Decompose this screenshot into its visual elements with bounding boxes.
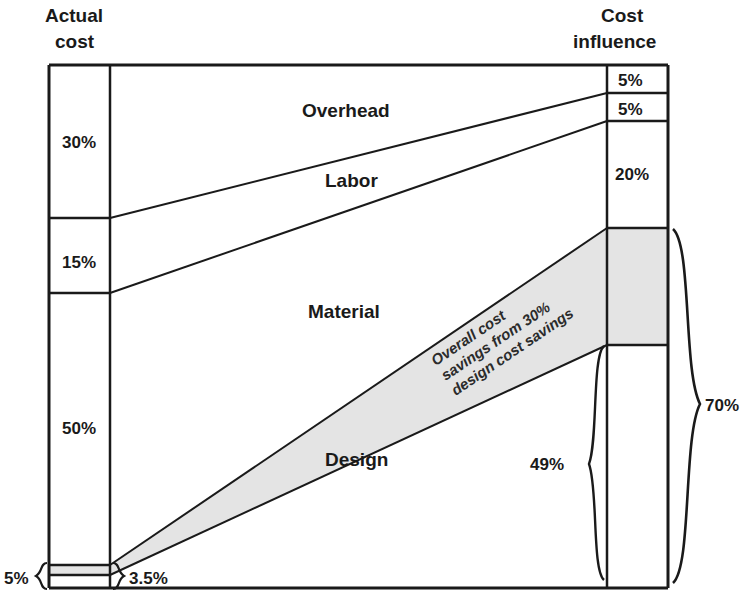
savings-upper-line — [110, 228, 607, 565]
area-label-labor: Labor — [325, 170, 378, 191]
total-influence-pct: 70% — [705, 396, 739, 415]
actual-cost-header-line2: cost — [55, 31, 95, 52]
actual-overhead-pct: 30% — [62, 133, 96, 152]
design-influence-brace — [589, 346, 604, 580]
actual-design-pct: 5% — [4, 569, 29, 588]
influence-overhead-pct: 5% — [618, 71, 643, 90]
area-label-design: Design — [325, 449, 388, 470]
area-label-material: Material — [308, 301, 380, 322]
labor-taper-line — [110, 121, 607, 293]
design-influence-pct: 49% — [530, 455, 564, 474]
cost-influence-header-line1: Cost — [601, 5, 644, 26]
cost-influence-header-line2: influence — [573, 31, 656, 52]
actual-cost-header-line1: Actual — [45, 5, 103, 26]
design-savings-wedge — [50, 228, 668, 575]
influence-shaded-block — [607, 228, 668, 345]
total-influence-brace — [673, 229, 700, 583]
savings-wedge-fill — [110, 228, 607, 575]
area-label-overhead: Overhead — [302, 100, 390, 121]
actual-design-inner-pct: 3.5% — [129, 569, 168, 588]
actual-material-pct: 50% — [62, 419, 96, 438]
actual-labor-pct: 15% — [62, 253, 96, 272]
cost-influence-diagram: 30% 15% 50% 5% 3.5% 5% 5% 20% 49% 70% Ac… — [0, 0, 752, 609]
actual-design-sliver-fill — [50, 565, 110, 575]
diagram-canvas: 30% 15% 50% 5% 3.5% 5% 5% 20% 49% 70% Ac… — [0, 0, 752, 609]
influence-material-pct: 20% — [615, 165, 649, 184]
actual-design-brace — [36, 563, 47, 589]
influence-labor-pct: 5% — [618, 100, 643, 119]
